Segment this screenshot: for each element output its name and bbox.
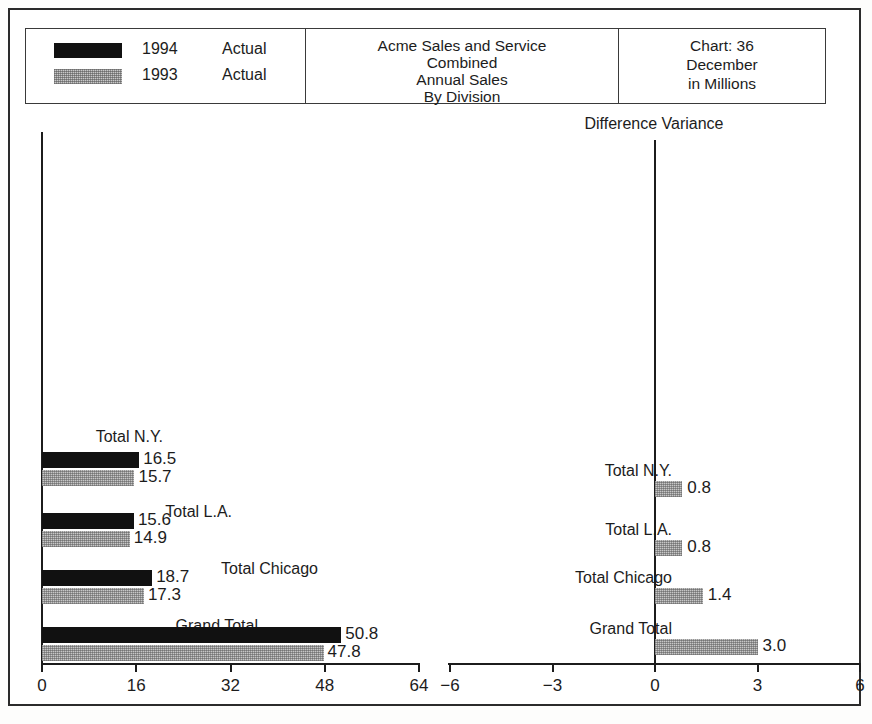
right-chart-bar-value: 0.8	[687, 478, 711, 498]
right-chart-group-label: Total L.A.	[605, 521, 672, 539]
right-chart-bar	[655, 540, 682, 556]
right-chart-bar-value: 3.0	[763, 636, 787, 656]
right-chart-tick	[757, 663, 759, 672]
right-chart-group-label: Grand Total	[590, 620, 672, 638]
right-chart-tick-label: −6	[440, 676, 459, 696]
right-chart-tick	[552, 663, 554, 672]
chart-page: 1994 Actual 1993 Actual Acme Sales and S…	[0, 0, 872, 724]
right-chart-tick-label: 6	[855, 676, 864, 696]
right-chart-tick-label: 0	[650, 676, 659, 696]
right-chart-bar	[655, 588, 703, 604]
right-chart-bar-value: 1.4	[708, 585, 732, 605]
difference-variance-title: Difference Variance	[584, 115, 723, 133]
right-chart-tick	[449, 663, 451, 672]
right-chart-bar-value: 0.8	[687, 537, 711, 557]
right-chart-group-label: Total Chicago	[575, 569, 672, 587]
right-chart-bar	[655, 639, 758, 655]
right-chart-tick-label: −3	[543, 676, 562, 696]
difference-variance-chart: Difference Variance −6−3036 Total N.Y.0.…	[0, 0, 872, 724]
right-chart-bar	[655, 481, 682, 497]
right-chart-tick	[859, 663, 861, 672]
right-chart-tick-label: 3	[753, 676, 762, 696]
right-chart-tick	[654, 663, 656, 672]
right-chart-group-label: Total N.Y.	[605, 462, 672, 480]
